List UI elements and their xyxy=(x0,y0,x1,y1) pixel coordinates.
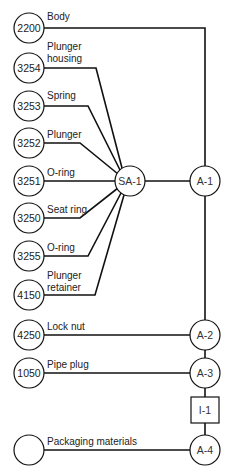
svg-text:3251: 3251 xyxy=(17,175,41,187)
svg-text:3255: 3255 xyxy=(17,250,41,262)
line-3254-sa1 xyxy=(44,68,122,168)
part-label: Seat ring xyxy=(47,204,87,215)
svg-text:4150: 4150 xyxy=(17,289,41,301)
part-label: Plunger xyxy=(47,129,82,140)
part-label: O-ring xyxy=(47,167,75,178)
part-label: Plunger xyxy=(47,270,82,281)
operation-node-sa1: SA-1 xyxy=(115,166,145,196)
part-node-2200: 2200 Body xyxy=(14,11,70,43)
inspection-node-i1: I-1 xyxy=(191,397,219,423)
operation-node-a4: A-4 xyxy=(190,435,220,465)
part-node-3254: 3254 Plunger housing xyxy=(14,41,82,83)
svg-text:SA-1: SA-1 xyxy=(118,175,142,187)
svg-text:A-3: A-3 xyxy=(197,367,214,379)
part-label: Packaging materials xyxy=(47,436,137,447)
svg-text:4250: 4250 xyxy=(17,329,41,341)
part-label: Body xyxy=(47,11,70,22)
svg-text:A-4: A-4 xyxy=(197,444,214,456)
part-label-line2: retainer xyxy=(47,282,82,293)
svg-text:I-1: I-1 xyxy=(199,404,211,416)
assembly-chart: 2200 Body 3254 Plunger housing 3253 Spri… xyxy=(0,0,232,475)
part-node-4150: 4150 Plunger retainer xyxy=(14,270,82,310)
svg-text:3250: 3250 xyxy=(17,212,41,224)
part-label: Lock nut xyxy=(47,321,85,332)
operation-node-a2: A-2 xyxy=(190,320,220,350)
svg-text:3253: 3253 xyxy=(17,100,41,112)
svg-text:3254: 3254 xyxy=(17,62,41,74)
svg-text:A-2: A-2 xyxy=(197,329,214,341)
svg-text:2200: 2200 xyxy=(17,22,41,34)
part-label: Pipe plug xyxy=(47,359,89,370)
svg-text:1050: 1050 xyxy=(17,367,41,379)
part-label: Plunger xyxy=(47,41,82,52)
svg-text:A-1: A-1 xyxy=(197,175,214,187)
operation-node-a1: A-1 xyxy=(190,166,220,196)
part-label: Spring xyxy=(47,90,76,101)
operation-node-a3: A-3 xyxy=(190,358,220,388)
part-label-line2: housing xyxy=(47,53,82,64)
part-label: O-ring xyxy=(47,242,75,253)
svg-text:3252: 3252 xyxy=(17,137,41,149)
